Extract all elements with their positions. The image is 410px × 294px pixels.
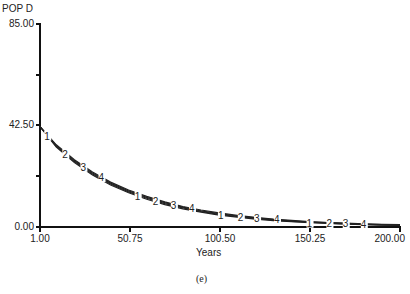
series-marker-3: 3 xyxy=(343,218,349,229)
series-marker-1: 1 xyxy=(218,210,224,221)
series-marker-3: 3 xyxy=(171,200,177,211)
series-marker-1: 1 xyxy=(135,191,141,202)
series-marker-4: 4 xyxy=(99,172,105,183)
series-marker-3: 3 xyxy=(80,162,86,173)
plot-area: 1234123412341234 xyxy=(0,0,410,294)
series-markers: 1234123412341234 xyxy=(44,131,368,230)
series-marker-4: 4 xyxy=(189,203,195,214)
series-marker-4: 4 xyxy=(361,219,367,230)
series-marker-4: 4 xyxy=(274,214,280,225)
series-marker-3: 3 xyxy=(254,213,260,224)
series-marker-1: 1 xyxy=(307,218,313,229)
series-marker-1: 1 xyxy=(44,131,50,142)
axes xyxy=(36,23,401,232)
series-marker-2: 2 xyxy=(62,149,68,160)
series-marker-2: 2 xyxy=(326,218,332,229)
series-marker-2: 2 xyxy=(153,196,159,207)
series-marker-2: 2 xyxy=(238,212,244,223)
